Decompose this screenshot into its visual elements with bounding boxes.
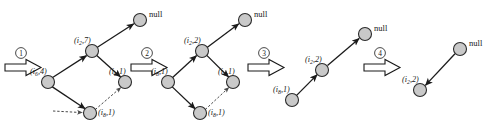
edge-low-to-mid-3 — [297, 75, 318, 96]
node-left-stage-1[interactable] — [42, 76, 55, 89]
edge-top-to-null — [97, 24, 133, 48]
node-middle-stage-3-label: (i2,2) — [305, 55, 322, 65]
step-number-4-badge: 4 — [375, 48, 386, 59]
node-top-stage-2-label: (i2,2) — [184, 36, 201, 46]
node-null-stage-2[interactable] — [239, 14, 252, 27]
edge-null-to-low-4 — [425, 54, 455, 86]
node-bottom-stage-2-label: (i8,1) — [208, 108, 225, 118]
step-number-1-badge: 1 — [16, 48, 27, 59]
edge-top-to-null-2 — [207, 24, 238, 48]
node-middle-stage-3[interactable] — [316, 64, 329, 77]
node-top-stage-2[interactable] — [196, 45, 209, 58]
step-number-2-badge: 2 — [142, 48, 153, 59]
node-lower-stage-3[interactable] — [286, 94, 299, 107]
step-number-1-text: 1 — [19, 49, 23, 58]
node-top-stage-1-label: (i2,7) — [74, 36, 91, 46]
node-right-stage-1-label: (i8,1) — [109, 67, 126, 77]
figure-linked-list-merge-sequence: 1 null (i2,7) (i6,4) (i8,1) — [0, 0, 491, 128]
edge-bottom-to-right-dashed-2 — [205, 87, 229, 109]
node-null-stage-3-label: null — [374, 23, 388, 33]
step-number-3-badge: 3 — [259, 48, 270, 59]
node-null-stage-4[interactable] — [454, 43, 467, 56]
node-lower-stage-3-label: (i8,1) — [273, 85, 290, 95]
step-number-2-text: 2 — [145, 49, 149, 58]
edge-left-to-bottom — [52, 87, 85, 109]
step-number-4-text: 4 — [378, 49, 382, 58]
node-left-stage-1-label: (i6,4) — [30, 67, 47, 77]
node-left-stage-2-label: (i8,1) — [151, 67, 168, 77]
step-arrow-4 — [364, 60, 400, 76]
edge-left-to-top — [53, 56, 87, 78]
node-bottom-stage-2[interactable] — [194, 107, 207, 120]
node-null-stage-4-label: null — [469, 38, 483, 48]
node-right-stage-1[interactable] — [119, 76, 132, 89]
node-right-stage-2-label: (i4,1) — [218, 67, 235, 77]
node-left-stage-2[interactable] — [162, 76, 175, 89]
node-null-stage-3[interactable] — [359, 28, 372, 41]
edge-left-to-top-2 — [173, 56, 197, 78]
edge-bottom-to-right-dashed — [95, 87, 121, 109]
step-number-3-text: 3 — [262, 49, 266, 58]
node-bottom-stage-1-label: (i8,1) — [98, 108, 115, 118]
step-arrow-3 — [248, 60, 284, 76]
node-null-stage-1-label: null — [149, 9, 163, 19]
edge-left-to-bottom-2 — [172, 87, 195, 109]
stage-4-edges — [425, 54, 455, 86]
node-lower-stage-4-label: (i2,2) — [402, 75, 419, 85]
node-top-stage-1[interactable] — [86, 45, 99, 58]
node-lower-stage-4[interactable] — [414, 84, 427, 97]
node-null-stage-1[interactable] — [134, 14, 147, 27]
node-bottom-stage-1[interactable] — [84, 107, 97, 120]
edge-mid-to-null-3 — [328, 38, 360, 65]
edge-incoming-dashed-to-bottom — [53, 111, 83, 113]
node-null-stage-2-label: null — [254, 9, 268, 19]
node-right-stage-2[interactable] — [227, 76, 240, 89]
